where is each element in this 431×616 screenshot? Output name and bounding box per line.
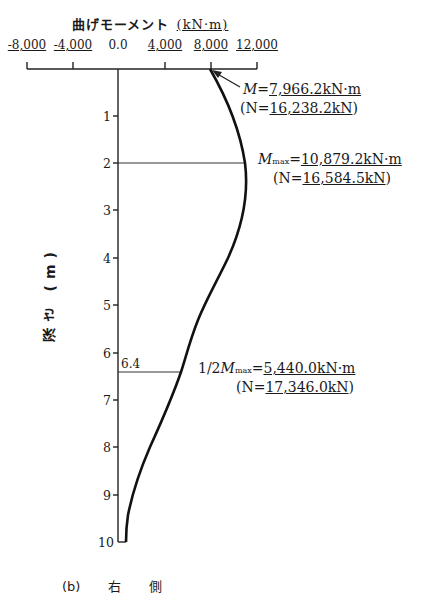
moment-symbol: M <box>258 151 272 167</box>
equals: = <box>252 360 264 376</box>
caption-text-1: 右 <box>108 579 121 594</box>
axial-value: 17,346.0kN <box>265 379 348 395</box>
moment-value: 7,966.2kN·m <box>269 81 361 97</box>
axial-open: (N= <box>273 170 302 186</box>
annotation-mmax: Mmax=10,879.2kN·m <box>258 150 402 171</box>
x-axis-bracket <box>27 62 257 69</box>
axial-open: (N= <box>240 100 269 116</box>
moment-symbol: M <box>243 81 257 97</box>
moment-subscript: max <box>235 366 252 375</box>
moment-value: 10,879.2kN·m <box>301 151 402 167</box>
caption-label: (b) <box>62 579 80 594</box>
axial-value: 16,238.2kN <box>269 100 352 116</box>
equals: = <box>289 151 301 167</box>
axial-close: ) <box>386 170 391 186</box>
annotation-half-mmax-axial: (N=17,346.0kN) <box>236 378 354 397</box>
moment-symbol: M <box>221 360 235 376</box>
equals: = <box>257 81 269 97</box>
moment-subscript: max <box>272 157 289 166</box>
axial-open: (N= <box>236 379 265 395</box>
depth-marker-label: 6.4 <box>121 357 140 371</box>
axial-value: 16,584.5kN <box>302 170 385 186</box>
annotation-top-moment: M=7,966.2kN·m <box>243 80 361 99</box>
annotation-top-axial: (N=16,238.2kN) <box>240 99 358 118</box>
caption-text-2: 側 <box>149 579 162 594</box>
annotation-mmax-axial: (N=16,584.5kN) <box>273 169 391 188</box>
axial-close: ) <box>353 100 358 116</box>
y-axis <box>113 69 126 542</box>
moment-curve <box>126 69 246 542</box>
moment-value: 5,440.0kN·m <box>263 360 355 376</box>
plot-area <box>0 0 431 616</box>
annotation-half-mmax: 1/2Mmax=5,440.0kN·m <box>198 359 355 380</box>
axial-close: ) <box>349 379 354 395</box>
half-prefix: 1/2 <box>198 360 221 376</box>
figure-caption: (b)右側 <box>62 576 190 595</box>
